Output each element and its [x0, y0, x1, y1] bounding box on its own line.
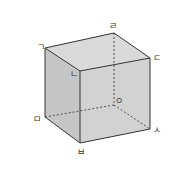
- vertex-label-o: ㅇ: [115, 96, 123, 106]
- cube-svg: ㄱ ㄴ ㄷ ㄹ ㅁ ㅂ ㅅ ㅇ: [0, 0, 192, 174]
- vertex-label-d: ㄷ: [153, 53, 161, 63]
- vertex-label-n: ㄴ: [70, 69, 78, 79]
- vertex-label-r: ㄹ: [109, 21, 117, 31]
- vertex-label-b: ㅂ: [77, 147, 85, 157]
- cube-diagram: ㄱ ㄴ ㄷ ㄹ ㅁ ㅂ ㅅ ㅇ: [0, 0, 192, 174]
- vertex-label-g: ㄱ: [37, 42, 45, 52]
- vertex-label-s: ㅅ: [153, 125, 161, 135]
- vertex-label-m: ㅁ: [33, 114, 41, 124]
